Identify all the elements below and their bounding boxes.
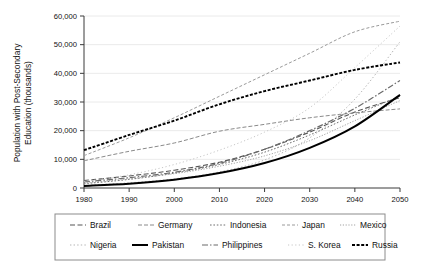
legend-label-s-korea: S. Korea: [308, 240, 341, 250]
y-tick-label: 10,000: [54, 155, 77, 164]
y-tick-label: 40,000: [54, 69, 77, 78]
x-tick-label: 2020: [256, 195, 273, 204]
y-axis-label-line2: Education (thousands): [23, 61, 33, 145]
chart-figure: Population with Post-Secondary Education…: [0, 0, 425, 269]
series-lines: [84, 21, 400, 186]
x-tick-label: 2040: [346, 195, 363, 204]
y-tick-marks: [80, 16, 84, 188]
y-tick-label: 30,000: [54, 98, 77, 107]
series-line-germany: [84, 109, 400, 161]
legend-label-indonesia: Indonesia: [230, 220, 267, 230]
x-tick-label: 2010: [211, 195, 228, 204]
legend-label-philippines: Philippines: [222, 240, 263, 250]
legend-label-japan: Japan: [302, 220, 325, 230]
legend-label-mexico: Mexico: [360, 220, 387, 230]
x-tick-labels: 19801990200020102020203020402050: [76, 195, 409, 204]
series-line-japan: [84, 21, 400, 155]
y-axis-label: Population with Post-Secondary Education…: [12, 43, 33, 163]
x-tick-label: 1980: [76, 195, 93, 204]
y-tick-label: 60,000: [54, 12, 77, 21]
x-tick-label: 2050: [392, 195, 409, 204]
legend-label-germany: Germany: [158, 220, 193, 230]
legend-label-pakistan: Pakistan: [152, 240, 184, 250]
x-tick-label: 1990: [121, 195, 138, 204]
line-chart: Population with Post-Secondary Education…: [0, 0, 425, 269]
legend-label-nigeria: Nigeria: [90, 240, 117, 250]
gridlines: [84, 16, 400, 159]
x-tick-marks: [84, 188, 400, 192]
y-axis-label-line1: Population with Post-Secondary: [12, 43, 22, 163]
y-tick-labels: 010,00020,00030,00040,00050,00060,000: [54, 12, 77, 193]
x-tick-label: 2000: [166, 195, 183, 204]
y-tick-label: 20,000: [54, 126, 77, 135]
series-line-s-korea: [84, 26, 400, 181]
y-tick-label: 50,000: [54, 40, 77, 49]
legend-label-brazil: Brazil: [90, 220, 111, 230]
legend-label-russia: Russia: [372, 240, 398, 250]
x-tick-label: 2030: [301, 195, 318, 204]
y-tick-label: 0: [73, 184, 77, 193]
series-line-pakistan: [84, 95, 400, 186]
